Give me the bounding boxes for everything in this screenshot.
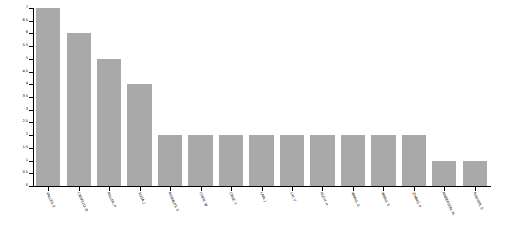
y-axis-tick-label-text: 0 bbox=[2, 184, 28, 188]
bar bbox=[97, 59, 121, 186]
y-axis-tick-label: 1.5 bbox=[0, 146, 28, 147]
x-axis-tick-label-text: NGUYEN, S bbox=[472, 192, 483, 210]
x-axis-tick-label-text: KOCH, H bbox=[319, 192, 328, 206]
x-axis-tick-label-text: LIU, V bbox=[289, 192, 296, 202]
y-axis-tick-label: 5 bbox=[0, 57, 28, 58]
y-axis-tick bbox=[29, 186, 33, 187]
y-axis-tick-label: 6 bbox=[0, 31, 28, 32]
x-axis-tick-label-text: MORALES, S bbox=[167, 192, 179, 212]
y-axis-tick-label-text: 7 bbox=[2, 6, 28, 10]
x-axis-tick-label-text: CHEN, W bbox=[197, 192, 207, 207]
y-axis-tick-label: 3.5 bbox=[0, 95, 28, 96]
y-axis-tick-label: 2 bbox=[0, 133, 28, 134]
x-axis-tick-label-text: WANG, T bbox=[380, 192, 389, 207]
bar-series bbox=[33, 8, 490, 186]
x-axis-tick-label-text: CASTILLO, D bbox=[76, 192, 88, 212]
bar bbox=[36, 8, 60, 186]
y-axis-tick-label: 4.5 bbox=[0, 70, 28, 71]
y-axis-tick-label: 4 bbox=[0, 82, 28, 83]
x-axis-tick-label-text: SOSA, J bbox=[136, 192, 144, 205]
y-axis-tick-label-text: 6 bbox=[2, 31, 28, 35]
bar bbox=[310, 135, 334, 186]
y-axis-tick-label: 1 bbox=[0, 159, 28, 160]
x-axis-tick-label-text: VALLES, E bbox=[45, 192, 55, 209]
x-axis-tick-label-text: ZHANG, P bbox=[411, 192, 421, 208]
y-axis-tick-label-text: 4 bbox=[2, 82, 28, 86]
bar bbox=[219, 135, 243, 186]
bar bbox=[67, 33, 91, 186]
y-axis-tick-label-text: 3.5 bbox=[2, 95, 28, 99]
y-axis-tick-label-text: 2 bbox=[2, 133, 28, 137]
y-axis-tick-label: 0 bbox=[0, 184, 28, 185]
bar-chart-figure: 00.511.522.533.544.555.566.57 VALLES, EC… bbox=[0, 0, 508, 231]
y-axis-tick-label: 2.5 bbox=[0, 120, 28, 121]
y-axis-tick-label-text: 5 bbox=[2, 57, 28, 61]
y-axis-tick-label-text: 1 bbox=[2, 159, 28, 163]
y-axis-tick-label: 0.5 bbox=[0, 171, 28, 172]
y-axis-tick-label-text: 3 bbox=[2, 108, 28, 112]
y-axis-tick-label-text: 5.5 bbox=[2, 44, 28, 48]
y-axis-tick-label-text: 6.5 bbox=[2, 19, 28, 23]
x-axis-tick-label-text: WANG, G bbox=[350, 192, 360, 207]
bar bbox=[188, 135, 212, 186]
bar bbox=[402, 135, 426, 186]
y-axis-tick-label-text: 0.5 bbox=[2, 171, 28, 175]
x-axis-tick-label-text: ANDERSON, M bbox=[441, 192, 454, 216]
bar bbox=[341, 135, 365, 186]
bar bbox=[249, 135, 273, 186]
x-axis-tick-label-text: LAM, J bbox=[258, 192, 265, 203]
x-axis-tick-label-text: CRUZ, Y bbox=[228, 192, 237, 206]
y-axis-tick-label: 5.5 bbox=[0, 44, 28, 45]
bar bbox=[158, 135, 182, 186]
y-axis-tick-label: 7 bbox=[0, 6, 28, 7]
bar bbox=[280, 135, 304, 186]
y-axis-tick-label: 3 bbox=[0, 108, 28, 109]
bar bbox=[463, 161, 487, 186]
bar bbox=[371, 135, 395, 186]
y-axis-tick-label-text: 4.5 bbox=[2, 70, 28, 74]
bar bbox=[127, 84, 151, 186]
y-axis-tick-label: 6.5 bbox=[0, 19, 28, 20]
y-axis-tick-label-text: 2.5 bbox=[2, 120, 28, 124]
x-axis-tick-label-text: MILLER, P bbox=[106, 192, 116, 208]
bar bbox=[432, 161, 456, 186]
y-axis-tick-label-text: 1.5 bbox=[2, 146, 28, 150]
